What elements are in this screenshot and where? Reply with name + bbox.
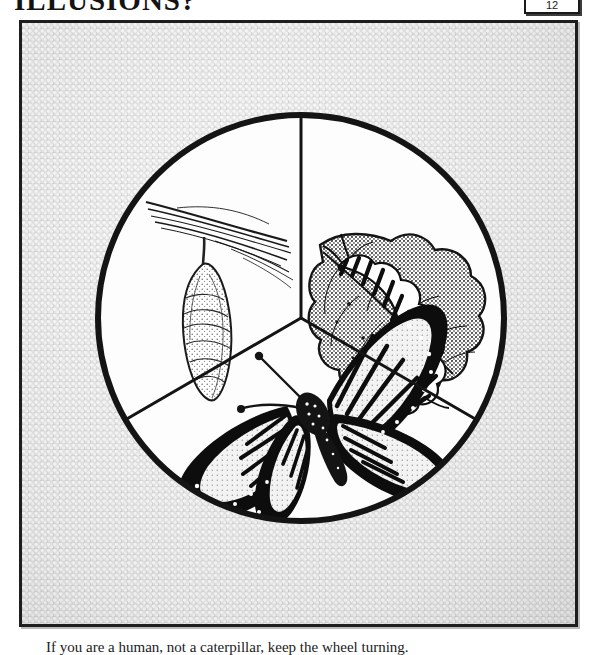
- page-heading: ILLUSIONS?: [14, 0, 196, 15]
- life-cycle-wheel-diagram: [91, 108, 511, 528]
- page-number-label: 12: [526, 0, 578, 11]
- page-number-badge: 12: [524, 0, 580, 14]
- plate-caption: If you are a human, not a caterpillar, k…: [46, 640, 409, 655]
- illustration-plate: [19, 20, 578, 627]
